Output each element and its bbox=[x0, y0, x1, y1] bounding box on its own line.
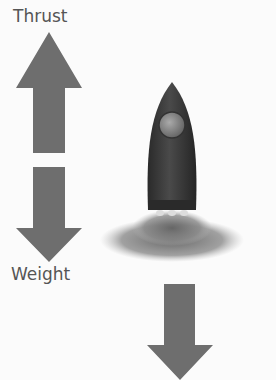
downward-arrow-icon bbox=[147, 284, 213, 380]
weight-arrow-icon bbox=[16, 167, 82, 262]
rocket-icon bbox=[148, 82, 197, 216]
diagram-canvas bbox=[0, 0, 276, 380]
rocket-window bbox=[159, 112, 185, 138]
thrust-arrow-icon bbox=[16, 32, 82, 153]
exhaust-cloud bbox=[100, 210, 244, 262]
